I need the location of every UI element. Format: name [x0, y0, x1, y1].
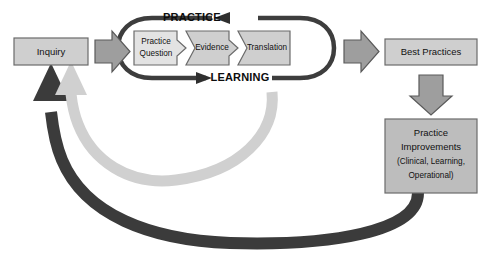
inquiry-node[interactable]: Inquiry — [14, 38, 88, 65]
cycle-to-best-practices-block-arrow — [344, 31, 379, 72]
practice-learning-cycle-diagram: PRACTICE LEARNING Inquiry Practice Quest… — [0, 0, 488, 256]
practice-improvements-label-line1: Practice — [414, 127, 448, 138]
translation-label: Translation — [247, 43, 288, 52]
learning-track-label: LEARNING — [210, 71, 269, 83]
practice-improvements-node[interactable]: Practice Improvements (Clinical, Learnin… — [385, 119, 477, 193]
practice-question-label-line1: Practice — [141, 37, 171, 46]
best-practices-label: Best Practices — [401, 46, 462, 57]
practice-improvements-label-line4: Operational) — [408, 171, 453, 180]
practice-question-node[interactable]: Practice Question — [134, 31, 186, 65]
best-practices-to-improvements-block-arrow — [410, 75, 452, 115]
practice-improvements-label-line2: Improvements — [401, 141, 461, 152]
inquiry-label: Inquiry — [37, 46, 66, 57]
evidence-label: Evidence — [195, 43, 229, 52]
best-practices-node[interactable]: Best Practices — [385, 39, 477, 65]
practice-improvements-label-line3: (Clinical, Learning, — [397, 157, 465, 166]
evidence-node[interactable]: Evidence — [186, 31, 238, 65]
diagram-canvas: PRACTICE LEARNING Inquiry Practice Quest… — [0, 0, 488, 256]
light-feedback-arrowhead — [55, 61, 87, 95]
practice-track-label: PRACTICE — [163, 11, 221, 23]
translation-node[interactable]: Translation — [238, 31, 290, 65]
practice-question-label-line2: Question — [140, 49, 173, 58]
